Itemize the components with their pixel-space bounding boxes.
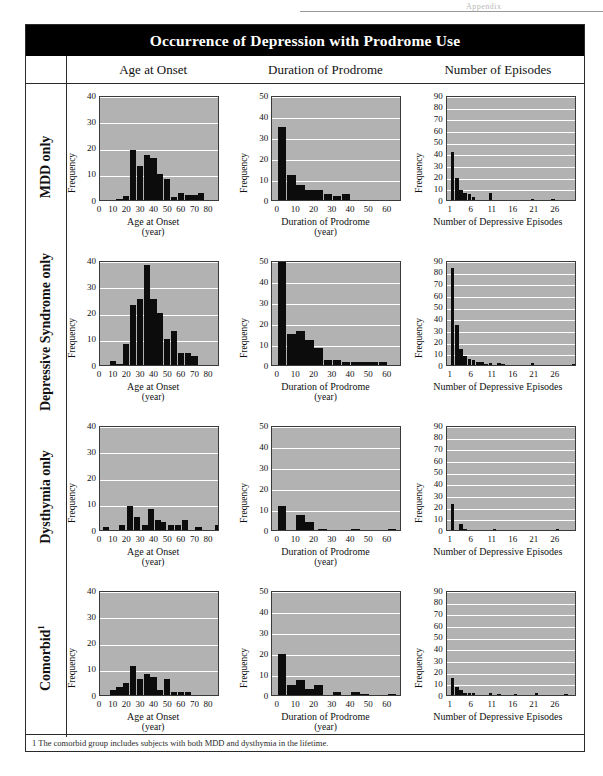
y-axis-tick-label: 30 <box>422 162 443 171</box>
gridline <box>447 97 575 98</box>
bar <box>455 687 459 695</box>
y-axis-tick-label: 20 <box>75 309 96 318</box>
bar <box>451 268 455 365</box>
bar <box>360 362 369 365</box>
bar <box>484 364 488 365</box>
y-axis-tick-label: 0 <box>247 527 268 536</box>
bar <box>333 196 342 200</box>
bar <box>451 152 455 200</box>
chart-grid: MDD only010203040Frequency01020304050607… <box>26 84 584 737</box>
gridline <box>100 262 218 263</box>
y-axis-title: Frequency <box>414 483 424 523</box>
bar <box>360 694 369 695</box>
gridline <box>447 320 575 321</box>
bar <box>463 356 467 365</box>
chart-cell-com-episodes: 0102030405060708090Frequency1611162126Nu… <box>412 579 584 737</box>
chart-cell-mdd-episodes: 0102030405060708090Frequency1611162126Nu… <box>412 84 584 249</box>
bar <box>459 524 463 530</box>
y-axis-title: Frequency <box>67 483 77 523</box>
bar <box>144 265 150 365</box>
gridline <box>447 439 575 440</box>
y-axis-tick-label: 20 <box>247 155 268 164</box>
bar <box>182 520 188 531</box>
bar <box>551 199 555 200</box>
figure-page: Appendix Occurrence of Depression with P… <box>0 0 603 776</box>
bar <box>185 353 191 365</box>
bar <box>278 127 287 201</box>
footnote-marker: 1 <box>38 625 47 629</box>
y-axis-tick-label: 70 <box>422 280 443 289</box>
x-axis-tick-label: 30 <box>322 700 342 709</box>
y-axis-tick-label: 20 <box>247 650 268 659</box>
gridline <box>272 655 400 656</box>
bar <box>296 185 305 200</box>
x-axis-tick-label: 0 <box>267 535 287 544</box>
chart-row: Depressive Syndrome only010203040Frequen… <box>26 249 584 414</box>
gridline <box>447 497 575 498</box>
x-axis-tick-label: 50 <box>358 370 378 379</box>
y-axis-tick-label: 40 <box>247 443 268 452</box>
chart-row: MDD only010203040Frequency01020304050607… <box>26 84 584 249</box>
chart-mdd-age: 010203040Frequency01020304050607080Age a… <box>67 84 239 249</box>
bar <box>497 363 501 365</box>
gridline <box>272 511 400 512</box>
gridline <box>447 627 575 628</box>
x-axis-unit: (year) <box>239 227 411 237</box>
x-axis-tick-label: 21 <box>524 370 544 379</box>
bar <box>463 193 467 200</box>
gridline <box>447 615 575 616</box>
bar <box>137 299 143 365</box>
bar <box>110 361 116 365</box>
bar <box>144 155 150 200</box>
plot-area <box>99 261 219 366</box>
bar <box>572 364 575 365</box>
y-axis-tick-label: 10 <box>422 350 443 359</box>
x-axis-tick-label: 1 <box>440 700 460 709</box>
bar <box>178 692 184 695</box>
y-axis-title: Frequency <box>414 318 424 358</box>
bar <box>123 344 129 365</box>
gridline <box>447 190 575 191</box>
bar <box>342 194 351 200</box>
row-label-depressive-syndrome-only: Depressive Syndrome only <box>26 249 67 414</box>
plot-area <box>99 426 219 531</box>
x-axis-tick-label: 80 <box>198 205 218 214</box>
bar <box>476 362 480 365</box>
chart-mdd-duration: 01020304050Frequency0102030405060Duratio… <box>239 84 411 249</box>
gridline <box>447 167 575 168</box>
chart-dys-episodes: 0102030405060708090Frequency1611162126Nu… <box>412 414 584 579</box>
bar <box>191 195 197 200</box>
x-axis-title: Duration of Prodrome <box>239 216 411 227</box>
gridline <box>100 506 218 507</box>
bar <box>150 299 156 365</box>
y-axis-tick-label: 50 <box>247 587 268 596</box>
x-axis-tick-label: 26 <box>545 700 565 709</box>
y-axis-tick-label: 50 <box>247 92 268 101</box>
x-axis-tick-label: 20 <box>303 700 323 709</box>
bar <box>468 194 472 200</box>
x-axis-tick-label: 6 <box>461 700 481 709</box>
bar <box>455 325 459 365</box>
y-axis-tick-label: 40 <box>75 257 96 266</box>
gridline <box>272 448 400 449</box>
bar <box>333 360 342 365</box>
bar <box>463 693 467 695</box>
chart-com-episodes: 0102030405060708090Frequency1611162126Nu… <box>412 579 584 737</box>
gridline <box>272 469 400 470</box>
x-axis-title: Age at Onset <box>67 216 239 227</box>
gridline <box>100 427 218 428</box>
y-axis-tick-label: 0 <box>247 362 268 371</box>
bar <box>130 666 136 695</box>
gridline <box>447 297 575 298</box>
bar <box>137 166 143 200</box>
bar <box>497 694 501 695</box>
y-axis-tick-label: 30 <box>422 657 443 666</box>
bar <box>287 685 296 696</box>
gridline <box>447 674 575 675</box>
y-axis-tick-label: 10 <box>75 665 96 674</box>
bar <box>171 692 177 695</box>
y-axis-tick-label: 20 <box>247 320 268 329</box>
y-axis-tick-label: 30 <box>75 448 96 457</box>
y-axis-title: Frequency <box>414 648 424 688</box>
bar <box>514 694 518 695</box>
